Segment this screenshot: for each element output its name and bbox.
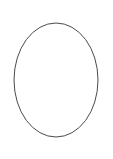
- drawing-canvas: [0, 0, 113, 159]
- ellipse-figure: [0, 0, 113, 159]
- canvas-background: [0, 0, 113, 159]
